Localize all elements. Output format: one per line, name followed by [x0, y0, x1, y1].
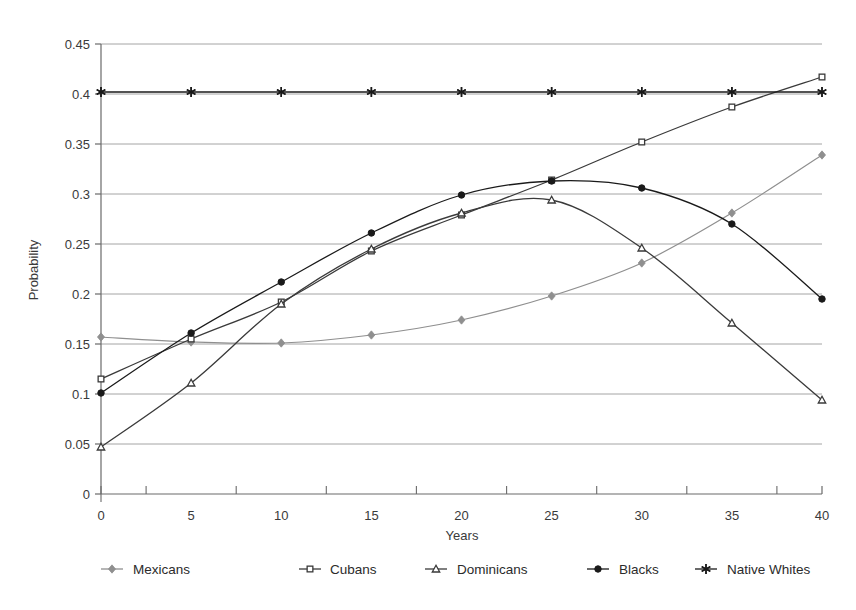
open-square-marker	[639, 139, 645, 145]
legend-filled-circle-icon	[595, 566, 601, 572]
x-tick-label: 30	[635, 508, 649, 523]
x-axis-title: Years	[446, 528, 479, 543]
filled-circle-marker	[98, 390, 104, 396]
chart-figure: 00.050.10.150.20.250.30.350.40.45 051015…	[0, 0, 856, 610]
legend-label: Blacks	[619, 562, 659, 577]
filled-circle-marker	[729, 221, 735, 227]
filled-circle-marker	[188, 330, 194, 336]
x-tick-label: 35	[725, 508, 739, 523]
y-axis-title: Probability	[26, 239, 41, 300]
open-square-marker	[188, 336, 194, 342]
y-tick-label: 0.05	[65, 437, 90, 452]
legend-label: Dominicans	[457, 562, 528, 577]
x-tick-label: 20	[454, 508, 468, 523]
filled-circle-marker	[548, 178, 554, 184]
x-tick-label: 0	[97, 508, 104, 523]
x-tick-label: 25	[544, 508, 558, 523]
open-square-marker	[98, 376, 104, 382]
filled-circle-marker	[368, 230, 374, 236]
x-tick-label: 40	[815, 508, 829, 523]
y-tick-label: 0.25	[65, 237, 90, 252]
legend-label: Cubans	[330, 562, 377, 577]
filled-circle-marker	[278, 279, 284, 285]
filled-circle-marker	[458, 192, 464, 198]
y-tick-label: 0.2	[72, 287, 90, 302]
x-tick-label: 15	[364, 508, 378, 523]
legend-label: Mexicans	[133, 562, 190, 577]
legend-open-square-icon	[307, 566, 313, 572]
filled-circle-marker	[819, 296, 825, 302]
y-tick-label: 0.1	[72, 387, 90, 402]
y-tick-label: 0.35	[65, 137, 90, 152]
y-tick-label: 0.45	[65, 37, 90, 52]
filled-circle-marker	[639, 185, 645, 191]
open-square-marker	[729, 104, 735, 110]
probability-vs-years-line-chart: 00.050.10.150.20.250.30.350.40.45 051015…	[0, 0, 856, 610]
legend-label: Native Whites	[727, 562, 811, 577]
y-tick-label: 0	[83, 487, 90, 502]
x-tick-label: 10	[274, 508, 288, 523]
open-square-marker	[819, 74, 825, 80]
y-tick-label: 0.15	[65, 337, 90, 352]
y-tick-label: 0.3	[72, 187, 90, 202]
x-tick-label: 5	[187, 508, 194, 523]
y-tick-label: 0.4	[72, 87, 90, 102]
